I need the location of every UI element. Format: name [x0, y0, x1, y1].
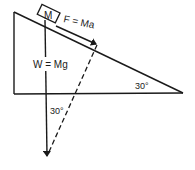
incline-triangle — [14, 12, 183, 94]
weight-label: W = Mg — [33, 59, 68, 70]
inclined-plane-diagram: M F = Ma W = Mg 30° 30° — [0, 0, 195, 170]
vector-angle-label: 30° — [50, 106, 64, 116]
block-label: M — [44, 10, 52, 21]
incline-angle-label: 30° — [135, 81, 149, 91]
weight-arrow — [45, 20, 47, 156]
force-label: F = Ma — [63, 13, 96, 30]
